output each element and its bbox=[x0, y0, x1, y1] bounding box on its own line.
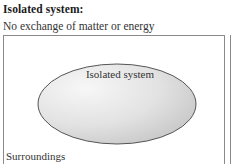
diagram-title: Isolated system: bbox=[3, 3, 84, 15]
adjacent-panel-title-fragment bbox=[231, 4, 234, 14]
surroundings-label: Surroundings bbox=[6, 150, 65, 162]
diagram-subtitle: No exchange of matter or energy bbox=[3, 20, 154, 32]
adjacent-panel-edge bbox=[230, 35, 234, 164]
isolated-system-label: Isolated system bbox=[60, 68, 180, 80]
